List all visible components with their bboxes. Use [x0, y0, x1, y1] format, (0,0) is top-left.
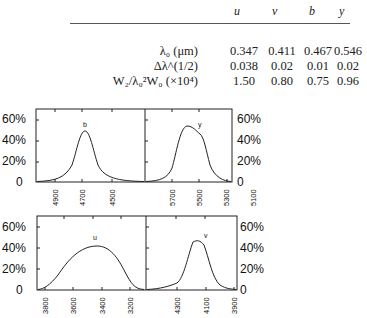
- top-right-yaxis: 60% 40% 20% 0: [237, 112, 261, 189]
- svg-text:4500: 4500: [108, 189, 117, 206]
- svg-text:40%: 40%: [237, 133, 261, 147]
- svg-text:4900: 4900: [51, 189, 60, 206]
- svg-text:60%: 60%: [240, 220, 264, 234]
- b-curve: [37, 131, 144, 182]
- svg-text:3600: 3600: [69, 297, 78, 314]
- svg-text:60%: 60%: [2, 112, 26, 126]
- y-peak-label: y: [198, 121, 202, 129]
- svg-text:3800: 3800: [41, 297, 50, 314]
- u-peak-label: u: [93, 234, 97, 241]
- svg-text:5100: 5100: [249, 189, 258, 206]
- svg-text:5300: 5300: [222, 189, 231, 206]
- svg-text:3200: 3200: [126, 297, 135, 314]
- bottom-right-yaxis: 60% 40% 20% 0: [240, 220, 264, 297]
- svg-text:20%: 20%: [237, 154, 261, 168]
- u-curve: [38, 246, 144, 290]
- top-xaxis: 4900 4700 4500 5700 5500 5300 5100: [51, 189, 258, 206]
- top-left-yaxis: 60% 40% 20% 0: [2, 112, 26, 189]
- svg-text:0: 0: [237, 175, 244, 189]
- svg-text:0: 0: [240, 283, 247, 297]
- svg-text:60%: 60%: [2, 220, 26, 234]
- v-curve: [147, 241, 236, 290]
- svg-text:40%: 40%: [2, 241, 26, 255]
- svg-text:20%: 20%: [2, 154, 26, 168]
- svg-text:3900: 3900: [230, 297, 239, 314]
- svg-text:20%: 20%: [2, 262, 26, 276]
- b-peak-label: b: [83, 121, 87, 128]
- bottom-panel: [37, 216, 237, 290]
- svg-text:60%: 60%: [237, 112, 261, 126]
- svg-text:0: 0: [16, 175, 23, 189]
- svg-text:4700: 4700: [78, 189, 87, 206]
- svg-text:20%: 20%: [240, 262, 264, 276]
- svg-text:40%: 40%: [2, 133, 26, 147]
- y-curve: [146, 126, 231, 182]
- v-peak-label: v: [204, 232, 208, 239]
- bottom-xaxis: 3800 3600 3400 3200 4300 4100 3900: [41, 297, 239, 314]
- svg-text:0: 0: [16, 283, 23, 297]
- bottom-left-yaxis: 60% 40% 20% 0: [2, 220, 26, 297]
- svg-text:5500: 5500: [195, 189, 204, 206]
- svg-text:4100: 4100: [202, 297, 211, 314]
- svg-text:4300: 4300: [173, 297, 182, 314]
- svg-text:40%: 40%: [240, 241, 264, 255]
- svg-text:5700: 5700: [168, 189, 177, 206]
- svg-text:3400: 3400: [98, 297, 107, 314]
- top-panel: [36, 109, 232, 182]
